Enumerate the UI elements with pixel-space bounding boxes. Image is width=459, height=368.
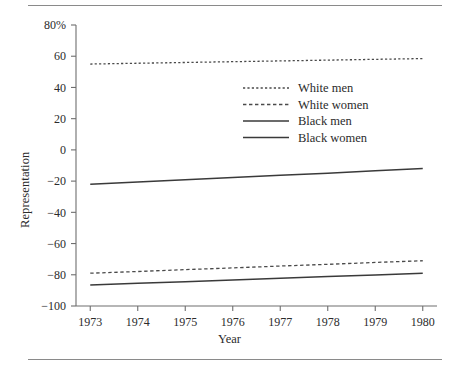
- series-line: [90, 261, 423, 273]
- y-tick-label: −80: [47, 268, 66, 282]
- series-line: [90, 169, 423, 185]
- y-tick-label: 20: [54, 112, 66, 126]
- y-tick-label: 40: [54, 81, 66, 95]
- data-series-lines: [90, 59, 423, 285]
- y-tick-label: −60: [47, 237, 66, 251]
- x-tick-label: 1979: [363, 315, 387, 329]
- x-tick-label: 1978: [316, 315, 340, 329]
- legend: White menWhite womenBlack menBlack women: [243, 81, 369, 144]
- legend-label-white-men: White men: [298, 81, 354, 95]
- series-line: [90, 59, 423, 64]
- x-tick-label: 1974: [126, 315, 150, 329]
- y-tick-label: 80%: [44, 18, 66, 32]
- x-tick-label: 1975: [173, 315, 197, 329]
- x-tick-label: 1977: [268, 315, 292, 329]
- x-tick-label: 1973: [78, 315, 102, 329]
- y-tick-label: −20: [47, 174, 66, 188]
- axis-lines: [76, 25, 437, 306]
- x-tick-label: 1980: [411, 315, 435, 329]
- x-tick-label: 1976: [221, 315, 245, 329]
- y-tick-label: −100: [41, 299, 66, 313]
- y-tick-label: −40: [47, 206, 66, 220]
- legend-label-black-women: Black women: [298, 131, 368, 145]
- x-axis-ticks: 19731974197519761977197819791980: [78, 306, 435, 329]
- series-line: [90, 273, 423, 285]
- legend-label-black-men: Black men: [298, 114, 353, 128]
- line-chart-plot: 80%6040200−20−40−60−80−100 1973197419751…: [0, 0, 459, 368]
- y-axis-ticks: 80%6040200−20−40−60−80−100: [41, 18, 76, 313]
- figure-container: Representation Year 80%6040200−20−40−60−…: [0, 0, 459, 368]
- y-tick-label: 0: [60, 143, 66, 157]
- legend-label-white-women: White women: [298, 98, 369, 112]
- y-tick-label: 60: [54, 49, 66, 63]
